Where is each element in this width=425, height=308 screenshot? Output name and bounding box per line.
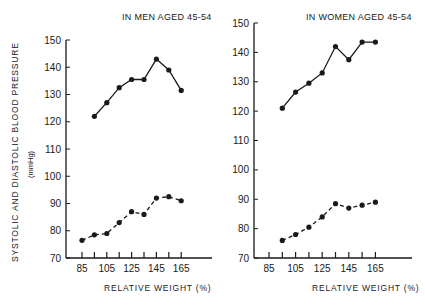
diastolic-data-point xyxy=(117,220,122,225)
diastolic-data-point xyxy=(92,232,97,237)
y-axis-label: SYSTOLIC AND DIASTOLIC BLOOD PRESSURE xyxy=(10,42,20,262)
systolic-data-point xyxy=(360,39,365,44)
diastolic-data-point xyxy=(280,238,285,243)
systolic-data-point xyxy=(346,57,351,62)
systolic-data-point xyxy=(92,114,97,119)
systolic-data-point xyxy=(373,39,378,44)
systolic-data-point xyxy=(117,85,122,90)
y-tick-label: 90 xyxy=(50,198,62,209)
x-tick-label: 145 xyxy=(340,263,357,274)
y-tick-label: 130 xyxy=(232,76,249,87)
diastolic-data-point xyxy=(373,200,378,205)
x-tick-label: 105 xyxy=(98,263,115,274)
systolic-data-point xyxy=(141,77,146,82)
y-tick-label: 120 xyxy=(44,116,61,127)
y-tick-label: 110 xyxy=(233,135,249,146)
y-tick-label: 90 xyxy=(238,194,250,205)
systolic-data-point xyxy=(306,81,311,86)
y-tick-label: 140 xyxy=(232,47,249,58)
x-tick-label: 165 xyxy=(367,263,384,274)
diastolic-data-point xyxy=(320,214,325,219)
y-tick-label: 70 xyxy=(238,253,250,264)
y-axis-unit: (mmHg) xyxy=(26,150,35,178)
systolic-data-point xyxy=(166,67,171,72)
diastolic-line xyxy=(82,197,181,241)
blood-pressure-charts: SYSTOLIC AND DIASTOLIC BLOOD PRESSURE (m… xyxy=(0,0,425,308)
y-tick-label: 80 xyxy=(50,225,62,236)
y-tick-label: 110 xyxy=(45,144,61,155)
women-chart-panel: IN WOMEN AGED 45-54708090100110120130140… xyxy=(232,12,419,293)
y-tick-label: 70 xyxy=(50,253,62,264)
y-tick-label: 80 xyxy=(238,223,250,234)
diastolic-data-point xyxy=(154,195,159,200)
y-tick-label: 130 xyxy=(44,89,61,100)
x-tick-label: 85 xyxy=(76,263,88,274)
diastolic-data-point xyxy=(141,212,146,217)
x-tick-label: 85 xyxy=(263,263,275,274)
systolic-data-point xyxy=(104,100,109,105)
x-tick-label: 145 xyxy=(148,263,165,274)
systolic-data-point xyxy=(129,77,134,82)
x-tick-label: 125 xyxy=(314,263,331,274)
x-tick-label: 165 xyxy=(173,263,190,274)
x-axis-label: RELATIVE WEIGHT (%) xyxy=(312,283,419,293)
x-axis-label: RELATIVE WEIGHT (%) xyxy=(104,283,211,293)
diastolic-data-point xyxy=(293,232,298,237)
systolic-data-point xyxy=(154,56,159,61)
diastolic-data-point xyxy=(166,194,171,199)
y-tick-label: 100 xyxy=(232,164,249,175)
chart-title: IN WOMEN AGED 45-54 xyxy=(306,12,412,22)
diastolic-data-point xyxy=(79,238,84,243)
systolic-data-point xyxy=(280,106,285,111)
systolic-data-point xyxy=(179,88,184,93)
chart-title: IN MEN AGED 45-54 xyxy=(122,12,212,22)
systolic-line xyxy=(282,42,375,108)
diastolic-data-point xyxy=(129,209,134,214)
diastolic-data-point xyxy=(333,201,338,206)
x-tick-label: 105 xyxy=(287,263,304,274)
diastolic-data-point xyxy=(179,198,184,203)
x-tick-label: 125 xyxy=(123,263,140,274)
systolic-data-point xyxy=(333,44,338,49)
y-tick-label: 150 xyxy=(44,35,61,46)
systolic-data-point xyxy=(293,89,298,94)
diastolic-data-point xyxy=(346,205,351,210)
y-tick-label: 140 xyxy=(44,62,61,73)
diastolic-data-point xyxy=(104,231,109,236)
diastolic-data-point xyxy=(360,203,365,208)
y-tick-label: 150 xyxy=(232,18,249,29)
systolic-data-point xyxy=(320,70,325,75)
men-chart-panel: IN MEN AGED 45-5470809010011012013014015… xyxy=(44,12,212,293)
y-tick-label: 120 xyxy=(232,106,249,117)
y-tick-label: 100 xyxy=(44,171,61,182)
diastolic-data-point xyxy=(306,225,311,230)
